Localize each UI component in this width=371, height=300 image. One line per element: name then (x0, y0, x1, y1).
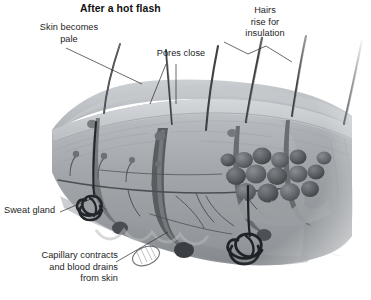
hair-shaft-6 (344, 40, 362, 124)
label-sweat-gland: Sweat gland (4, 205, 76, 217)
eccrine-coil-hatch (136, 246, 156, 264)
skin-block (52, 36, 363, 270)
sebaceous-gland-2 (155, 131, 166, 140)
label-pores-close: Pores close (150, 48, 212, 60)
label-hairs-rise-for-insulation: Hairs rise for insulation (228, 5, 302, 40)
skin-cross-section-figure: After a hot flash Skin becomes pale Pore… (0, 0, 371, 300)
sebaceous-gland-3 (227, 129, 237, 137)
figure-title: After a hot flash (80, 3, 161, 14)
label-skin-becomes-pale: Skin becomes pale (20, 22, 118, 45)
label-capillary-contracts: Capillary contracts and blood drains fro… (8, 250, 118, 285)
